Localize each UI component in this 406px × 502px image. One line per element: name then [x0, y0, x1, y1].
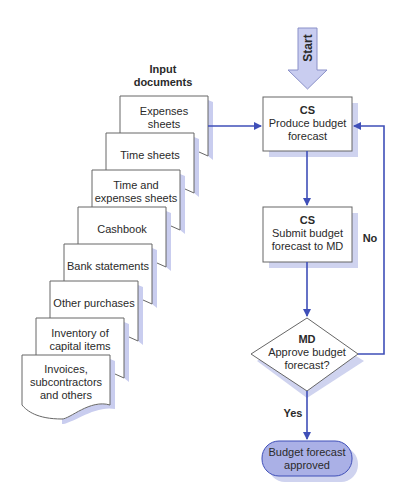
document-label-1: Expensessheets [120, 105, 208, 131]
submit-role: CS [263, 214, 352, 227]
end-line-1: Budget forecast [262, 446, 352, 459]
produce-line-1: Produce budget [263, 117, 352, 130]
document-line: subcontractors [22, 376, 110, 389]
document-line: Invoices, [22, 363, 110, 376]
produce-role: CS [263, 104, 352, 117]
document-line: Other purchases [50, 297, 138, 310]
document-label-3: Time andexpenses sheets [92, 179, 180, 205]
document-line: Cashbook [78, 223, 166, 236]
approve-forecast-text: MD Approve budget forecast? [257, 333, 357, 372]
end-text: Budget forecast approved [262, 446, 352, 472]
document-label-2: Time sheets [106, 149, 194, 162]
document-line: Bank statements [64, 260, 152, 273]
submit-forecast-text: CS Submit budget forecast to MD [263, 214, 352, 253]
submit-line-2: forecast to MD [263, 240, 352, 253]
document-line: Time sheets [106, 149, 194, 162]
connectors [208, 126, 384, 439]
start-arrow: Start [288, 28, 327, 89]
produce-forecast-text: CS Produce budget forecast [263, 104, 352, 143]
document-label-6: Other purchases [50, 297, 138, 310]
document-label-4: Cashbook [78, 223, 166, 236]
document-line: Time and [92, 179, 180, 192]
title-line-2: documents [123, 76, 203, 89]
document-label-5: Bank statements [64, 260, 152, 273]
end-line-2: approved [262, 459, 352, 472]
document-line: capital items [36, 340, 124, 353]
submit-line-1: Submit budget [263, 227, 352, 240]
approve-role: MD [257, 333, 357, 346]
document-line: Expenses [120, 105, 208, 118]
edge-label-no: No [361, 232, 379, 245]
approve-line-1: Approve budget [257, 346, 357, 359]
title-line-1: Input [123, 63, 203, 76]
edge-label-yes: Yes [281, 407, 305, 420]
document-line: Inventory of [36, 327, 124, 340]
start-label: Start [301, 34, 315, 61]
produce-line-2: forecast [263, 130, 352, 143]
document-line: sheets [120, 118, 208, 131]
approve-line-2: forecast? [257, 359, 357, 372]
document-line: and others [22, 389, 110, 402]
document-line: expenses sheets [92, 192, 180, 205]
input-documents-title: Input documents [123, 63, 203, 89]
document-label-7: Inventory ofcapital items [36, 327, 124, 353]
document-label-8: Invoices,subcontractorsand others [22, 363, 110, 402]
